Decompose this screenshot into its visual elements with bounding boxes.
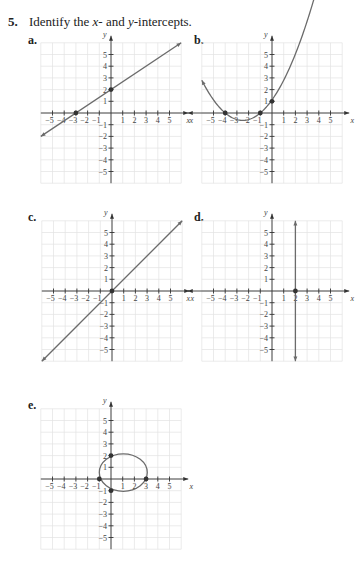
y-tick-label: −2 — [98, 132, 107, 141]
x-tick-label: 3 — [145, 294, 149, 303]
x-axis-arrow-icon — [344, 289, 349, 293]
x-axis-label: x — [349, 116, 354, 125]
x-tick-label: −3 — [69, 482, 78, 491]
y-tick-label: 3 — [104, 252, 108, 261]
curve — [41, 43, 181, 137]
y-tick-label: −4 — [259, 156, 268, 165]
y-tick-label: 3 — [264, 74, 268, 83]
y-tick-label: −2 — [259, 132, 268, 141]
x-tick-label: −3 — [230, 116, 239, 125]
grid-lines — [42, 221, 182, 361]
x-axis-left-arrow-icon — [188, 289, 193, 293]
graph-d: −5−4−3−2−11234554321−1−2−3−4−5xxy — [0, 0, 359, 568]
y-tick-label: −4 — [259, 334, 268, 343]
y-tick-label: 4 — [264, 240, 268, 249]
y-tick-label: 2 — [264, 264, 268, 273]
y-tick-label: 5 — [264, 51, 268, 60]
x-tick-label: 5 — [329, 116, 333, 125]
grid-lines — [202, 221, 342, 361]
x-tick-label: 3 — [144, 482, 148, 491]
grid-lines — [41, 409, 181, 549]
axes — [41, 402, 188, 549]
y-tick-label: 4 — [103, 428, 107, 437]
curve — [99, 454, 147, 491]
graph-d-content: −5−4−3−2−11234554321−1−2−3−4−5xxy — [186, 208, 355, 361]
x-tick-label: 5 — [329, 294, 333, 303]
x-tick-label: 4 — [317, 294, 321, 303]
y-tick-label: 3 — [103, 440, 107, 449]
axes — [188, 214, 349, 361]
y-tick-label: 4 — [104, 240, 108, 249]
y-axis-arrow-icon — [109, 402, 113, 407]
y-tick-label: 5 — [103, 417, 107, 426]
x-tick-label: −2 — [81, 294, 90, 303]
x-axis-left-arrow-icon — [188, 111, 193, 115]
curve-arrow-icon — [176, 43, 181, 47]
x-tick-label: −3 — [69, 116, 78, 125]
x-tick-label: −4 — [218, 294, 227, 303]
x-axis-label: x — [189, 294, 194, 303]
x-tick-label: −2 — [241, 294, 250, 303]
intercept-point — [74, 111, 79, 116]
prompt-mid: - and — [98, 14, 128, 29]
x-tick-label: 2 — [293, 116, 297, 125]
x-axis-label: x — [349, 294, 354, 303]
x-tick-label: 5 — [168, 482, 172, 491]
x-tick-label: −1 — [253, 294, 262, 303]
curve-arrow-icon — [202, 80, 206, 85]
x-tick-label: 3 — [305, 116, 309, 125]
y-tick-label: −5 — [98, 534, 107, 543]
y-tick-label: −5 — [99, 346, 108, 355]
x-tick-label: −1 — [253, 116, 262, 125]
y-tick-label: 2 — [264, 86, 268, 95]
x-tick-label: −1 — [92, 116, 101, 125]
y-axis-label: y — [102, 396, 107, 405]
y-tick-label: 5 — [103, 51, 107, 60]
graph-c: −5−4−3−2−11234554321−1−2−3−4−5xy — [0, 0, 359, 568]
y-tick-label: −4 — [98, 156, 107, 165]
y-tick-label: −5 — [98, 168, 107, 177]
x-tick-label: 4 — [156, 116, 160, 125]
x-axis-label: x — [188, 482, 193, 491]
y-tick-label: −3 — [99, 322, 108, 331]
intercept-point — [110, 289, 115, 294]
y-tick-label: −1 — [259, 299, 268, 308]
x-tick-label: −1 — [93, 294, 102, 303]
y-axis-arrow-icon — [110, 214, 114, 219]
graph-a-content: −5−4−3−2−11234554321−1−2−3−4−5xy — [41, 30, 194, 183]
y-axis-label: y — [263, 30, 268, 39]
x-tick-label: 1 — [282, 116, 286, 125]
y-tick-label: 2 — [104, 264, 108, 273]
y-tick-label: −1 — [98, 121, 107, 130]
x-tick-label: −5 — [206, 294, 215, 303]
intercept-point — [223, 111, 228, 116]
curve-arrow-icon — [41, 132, 46, 136]
y-tick-label: 2 — [103, 452, 107, 461]
y-tick-label: 4 — [264, 62, 268, 71]
y-tick-label: −3 — [98, 144, 107, 153]
x-tick-label: 4 — [156, 482, 160, 491]
x-tick-label: 4 — [317, 116, 321, 125]
graph-e-label: e. — [28, 398, 36, 413]
x-tick-label: −4 — [57, 482, 66, 491]
axes — [42, 214, 189, 361]
y-tick-label: 1 — [264, 275, 268, 284]
x-axis-arrow-icon — [183, 111, 188, 115]
axes — [41, 36, 188, 183]
x-tick-label: −4 — [57, 116, 66, 125]
intercept-point — [293, 289, 298, 294]
x-tick-label: −2 — [241, 116, 250, 125]
y-axis-arrow-icon — [109, 36, 113, 41]
y-tick-label: 5 — [104, 229, 108, 238]
x-tick-label: −2 — [80, 482, 89, 491]
y-tick-label: 3 — [264, 252, 268, 261]
x-tick-label: 2 — [132, 116, 136, 125]
intercept-point — [109, 488, 114, 493]
x-tick-label: 3 — [144, 116, 148, 125]
x-tick-label: 5 — [169, 294, 173, 303]
y-tick-label: −2 — [259, 310, 268, 319]
curve — [202, 0, 315, 120]
y-tick-label: −1 — [99, 299, 108, 308]
grid-lines — [41, 43, 181, 183]
x-tick-label: 2 — [132, 482, 136, 491]
